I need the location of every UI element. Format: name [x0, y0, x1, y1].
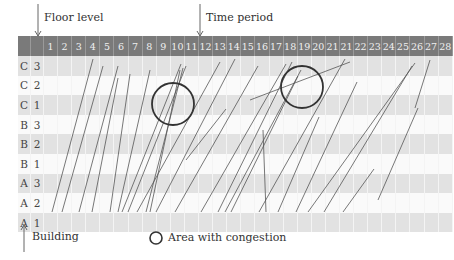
trajectory-line — [378, 108, 418, 200]
trajectory-line — [186, 109, 226, 160]
congestion-circles — [152, 66, 323, 125]
trajectory-line — [308, 63, 415, 212]
trajectory-line — [324, 66, 412, 212]
trajectory-line — [92, 78, 118, 212]
trajectory-overlay — [0, 0, 454, 260]
trajectory-line — [225, 70, 301, 212]
trajectory-line — [415, 60, 430, 108]
congestion-circle — [281, 66, 323, 108]
trajectory-line — [296, 82, 357, 212]
floor-level-arrow-icon — [35, 4, 41, 36]
building-arrow-icon — [21, 225, 27, 252]
time-period-arrow-icon — [197, 4, 203, 36]
trajectory-line — [343, 169, 374, 212]
trajectories — [52, 59, 430, 212]
trajectory-line — [62, 66, 103, 212]
legend-circle-icon — [150, 232, 162, 244]
trajectory-line — [146, 68, 183, 212]
trajectory-line — [201, 64, 286, 212]
trajectory-line — [278, 117, 319, 212]
trajectory-line — [156, 59, 235, 212]
trajectory-line — [52, 59, 93, 212]
trajectory-line — [150, 70, 180, 212]
trajectory-line — [110, 74, 130, 212]
trajectory-line — [250, 62, 350, 100]
trajectory-line — [118, 70, 150, 212]
